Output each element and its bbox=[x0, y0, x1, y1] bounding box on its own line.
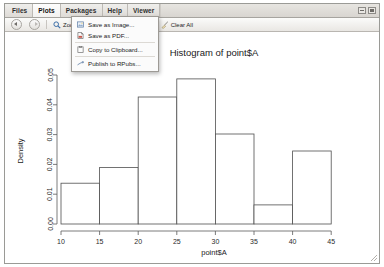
clear-all-label: Clear All bbox=[171, 22, 193, 28]
toolbar-divider-1 bbox=[46, 20, 47, 29]
tab-packages-label: Packages bbox=[66, 7, 97, 14]
y-tick-label-5: 0.05 bbox=[47, 68, 54, 82]
y-tick-label-3: 0.03 bbox=[47, 128, 54, 142]
table-row[interactable] bbox=[100, 167, 139, 224]
y-tick-2: 0.02 bbox=[47, 157, 58, 171]
image-icon bbox=[77, 21, 84, 28]
table-row[interactable] bbox=[215, 134, 254, 224]
resize-grip-icon[interactable] bbox=[369, 253, 378, 262]
tab-files[interactable]: Files bbox=[7, 4, 33, 17]
table-row[interactable] bbox=[61, 183, 100, 224]
x-tick-7: 45 bbox=[327, 231, 335, 245]
histogram-plot: Histogram of point$A Density point$A 0.0… bbox=[5, 32, 379, 263]
y-axis: 0.00 0.01 0.02 0.03 0.04 bbox=[47, 68, 58, 231]
y-tick-4: 0.04 bbox=[47, 98, 58, 112]
magnifier-icon bbox=[53, 21, 61, 29]
broom-icon bbox=[161, 21, 169, 29]
table-row[interactable] bbox=[177, 79, 216, 224]
chart-title: Histogram of point$A bbox=[170, 47, 259, 58]
pane-tab-strip: Files Plots Packages Help Viewer bbox=[5, 4, 379, 18]
y-tick-label-4: 0.04 bbox=[47, 98, 54, 112]
x-tick-label-4: 30 bbox=[212, 238, 220, 245]
y-tick-label-0: 0.00 bbox=[47, 217, 54, 231]
forward-button[interactable] bbox=[27, 19, 42, 30]
x-tick-label-0: 10 bbox=[57, 238, 65, 245]
window-controls bbox=[355, 4, 379, 17]
x-tick-6: 40 bbox=[289, 231, 297, 245]
menu-divider-1 bbox=[75, 42, 155, 43]
export-dropdown-menu: Save as Image... Save as PDF... Copy to … bbox=[71, 16, 159, 72]
back-button[interactable] bbox=[9, 19, 24, 30]
table-row[interactable] bbox=[138, 97, 177, 224]
menu-item-copy-to-clipboard-label: Copy to Clipboard... bbox=[88, 46, 143, 53]
publish-icon bbox=[77, 60, 84, 67]
clipboard-icon bbox=[77, 46, 84, 53]
x-tick-label-5: 35 bbox=[250, 238, 258, 245]
y-tick-5: 0.05 bbox=[47, 68, 58, 82]
menu-item-copy-to-clipboard[interactable]: Copy to Clipboard... bbox=[72, 44, 158, 55]
histogram-bars bbox=[61, 79, 331, 224]
maximize-icon[interactable] bbox=[368, 7, 376, 14]
pdf-icon bbox=[77, 32, 84, 39]
x-tick-label-6: 40 bbox=[289, 238, 297, 245]
clear-all-button[interactable]: Clear All bbox=[159, 19, 195, 30]
plot-canvas[interactable]: Histogram of point$A Density point$A 0.0… bbox=[5, 32, 379, 263]
x-axis-label: point$A bbox=[201, 248, 226, 257]
tab-help-label: Help bbox=[108, 7, 123, 14]
tab-strip-filler bbox=[160, 4, 355, 17]
y-tick-label-1: 0.01 bbox=[47, 187, 54, 201]
y-tick-1: 0.01 bbox=[47, 187, 58, 201]
y-tick-0: 0.00 bbox=[47, 217, 58, 231]
arrow-left-icon bbox=[11, 19, 22, 30]
x-tick-1: 15 bbox=[96, 231, 104, 245]
menu-item-publish-to-rpubs-label: Publish to RPubs... bbox=[88, 60, 141, 67]
plots-pane: Files Plots Packages Help Viewer bbox=[4, 3, 380, 264]
tab-plots[interactable]: Plots bbox=[33, 4, 60, 17]
x-tick-label-7: 45 bbox=[327, 238, 335, 245]
x-axis: 10 15 20 25 30 bbox=[57, 231, 335, 245]
menu-item-save-as-pdf[interactable]: Save as PDF... bbox=[72, 30, 158, 41]
menu-item-save-as-pdf-label: Save as PDF... bbox=[88, 32, 129, 39]
minimize-icon[interactable] bbox=[358, 7, 366, 14]
y-axis-label: Density bbox=[16, 138, 25, 163]
y-tick-label-2: 0.02 bbox=[47, 157, 54, 171]
x-tick-label-3: 25 bbox=[173, 238, 181, 245]
x-tick-label-1: 15 bbox=[96, 238, 104, 245]
x-tick-3: 25 bbox=[173, 231, 181, 245]
tab-plots-label: Plots bbox=[38, 7, 54, 14]
menu-divider-2 bbox=[75, 56, 155, 57]
menu-item-save-as-image[interactable]: Save as Image... bbox=[72, 19, 158, 30]
table-row[interactable] bbox=[254, 205, 293, 224]
tab-viewer-label: Viewer bbox=[133, 7, 154, 14]
x-tick-2: 20 bbox=[134, 231, 142, 245]
table-row[interactable] bbox=[293, 151, 332, 224]
x-tick-label-2: 20 bbox=[134, 238, 142, 245]
y-tick-3: 0.03 bbox=[47, 128, 58, 142]
x-tick-0: 10 bbox=[57, 231, 65, 245]
arrow-right-icon bbox=[29, 19, 40, 30]
x-tick-5: 35 bbox=[250, 231, 258, 245]
tab-files-label: Files bbox=[12, 7, 27, 14]
menu-item-save-as-image-label: Save as Image... bbox=[88, 21, 134, 28]
menu-item-publish-to-rpubs[interactable]: Publish to RPubs... bbox=[72, 58, 158, 69]
x-tick-4: 30 bbox=[212, 231, 220, 245]
plots-toolbar: Zoom Export bbox=[5, 18, 379, 32]
